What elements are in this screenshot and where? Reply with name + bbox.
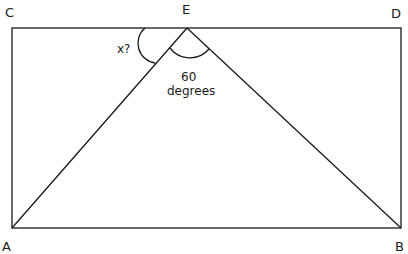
point-label-b: B	[395, 239, 404, 254]
rectangle	[12, 28, 401, 228]
line-ea	[12, 28, 187, 228]
point-label-c: C	[5, 5, 14, 20]
angle-arc-x	[138, 28, 155, 63]
angle-label-60-unit: degrees	[167, 84, 215, 98]
point-label-e: E	[182, 2, 190, 17]
line-eb	[187, 28, 401, 228]
point-label-a: A	[2, 239, 11, 254]
angle-label-x: x?	[117, 42, 130, 56]
angle-label-60-value: 60	[181, 70, 196, 84]
point-label-d: D	[391, 6, 401, 21]
geometry-diagram: C E D A B x? 60 degrees	[0, 0, 408, 254]
angle-arc-60	[170, 48, 209, 58]
